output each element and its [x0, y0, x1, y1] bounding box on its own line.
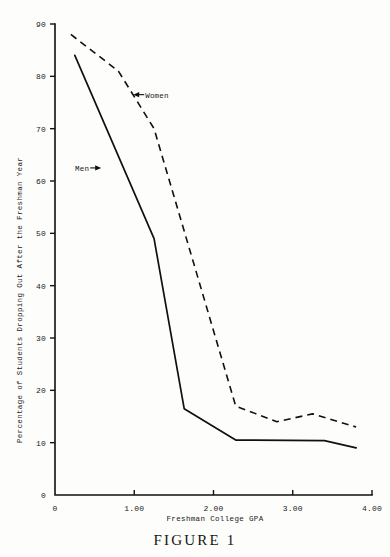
- y-axis-tick-labels: 0102030405060708090: [36, 20, 46, 500]
- y-tick-label: 0: [41, 491, 46, 500]
- chart-series: [71, 34, 356, 447]
- x-axis-tick-labels: 01.002.003.004.00: [52, 504, 382, 513]
- y-tick-label: 60: [36, 177, 46, 186]
- annotation-women: Women: [133, 92, 169, 100]
- x-tick-label: 3.00: [283, 504, 303, 513]
- x-tick-label: 1.00: [124, 504, 144, 513]
- figure-container: 0102030405060708090 01.002.003.004.00 Pe…: [0, 0, 390, 557]
- y-tick-label: 90: [36, 20, 46, 29]
- line-chart: 0102030405060708090 01.002.003.004.00 Pe…: [0, 0, 390, 557]
- annotation-men: Men: [75, 165, 101, 173]
- x-tick-label: 4.00: [362, 504, 382, 513]
- axis-lines: [55, 24, 372, 495]
- x-tick-label: 2.00: [203, 504, 223, 513]
- y-tick-label: 40: [36, 282, 46, 291]
- x-tick-label: 0: [52, 504, 57, 513]
- y-tick-label: 10: [36, 439, 46, 448]
- y-tick-label: 70: [36, 125, 46, 134]
- y-tick-label: 20: [36, 386, 46, 395]
- x-axis-title: Freshman College GPA: [166, 515, 263, 523]
- y-tick-label: 50: [36, 229, 46, 238]
- chart-annotations: WomenMen: [75, 92, 169, 173]
- y-axis-title: Percentage of Students Dropping Out Afte…: [16, 157, 24, 443]
- annotation-label: Men: [75, 165, 89, 173]
- figure-caption: FIGURE 1: [0, 532, 390, 549]
- series-line-women: [71, 34, 356, 427]
- series-line-men: [75, 55, 356, 448]
- y-tick-label: 80: [36, 72, 46, 81]
- annotation-label: Women: [145, 92, 169, 100]
- y-tick-label: 30: [36, 334, 46, 343]
